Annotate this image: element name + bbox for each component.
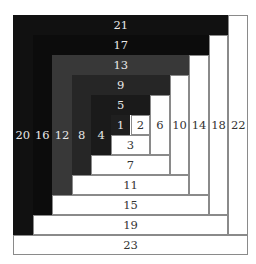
- quilt-piece-20: 20: [13, 35, 33, 235]
- quilt-piece-12: 12: [52, 75, 72, 195]
- quilt-piece-10: 10: [170, 75, 190, 175]
- quilt-piece-13: 13: [52, 55, 189, 75]
- quilt-piece-23: 23: [13, 235, 248, 255]
- quilt-piece-1: 1: [111, 115, 131, 135]
- quilt-piece-18: 18: [209, 35, 229, 215]
- quilt-piece-21: 21: [13, 15, 228, 35]
- quilt-piece-9: 9: [72, 75, 170, 95]
- quilt-piece-5: 5: [91, 95, 150, 115]
- quilt-piece-7: 7: [91, 155, 169, 175]
- quilt-piece-4: 4: [91, 115, 111, 155]
- log-cabin-quilt-block: 1234567891011121314151617181920212223: [13, 15, 248, 255]
- quilt-piece-3: 3: [111, 135, 150, 155]
- quilt-piece-14: 14: [189, 55, 209, 195]
- quilt-piece-22: 22: [228, 15, 248, 235]
- quilt-piece-11: 11: [72, 175, 190, 195]
- quilt-piece-15: 15: [52, 195, 209, 215]
- quilt-piece-17: 17: [33, 35, 209, 55]
- quilt-piece-6: 6: [150, 95, 170, 155]
- quilt-piece-2: 2: [131, 115, 151, 135]
- quilt-piece-19: 19: [33, 215, 229, 235]
- quilt-piece-8: 8: [72, 95, 92, 175]
- quilt-piece-16: 16: [33, 55, 53, 215]
